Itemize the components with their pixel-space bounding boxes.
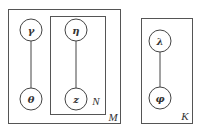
plate-diagram: γ θ η z λ φ N M K [0, 0, 198, 134]
node-gamma-label: γ [28, 25, 35, 36]
node-phi: φ [149, 87, 171, 109]
node-eta-label: η [72, 25, 79, 36]
node-eta: η [65, 19, 87, 41]
node-theta: θ [20, 88, 42, 110]
node-gamma: γ [20, 19, 42, 41]
node-lambda-label: λ [155, 36, 163, 47]
node-z-label: z [72, 94, 79, 105]
plate-n-label: N [91, 95, 100, 107]
node-lambda: λ [149, 30, 171, 52]
node-phi-label: φ [155, 93, 164, 104]
plate-m-label: M [107, 111, 118, 123]
node-z: z [65, 88, 87, 110]
node-theta-label: θ [28, 94, 35, 105]
plate-k-label: K [180, 110, 189, 122]
